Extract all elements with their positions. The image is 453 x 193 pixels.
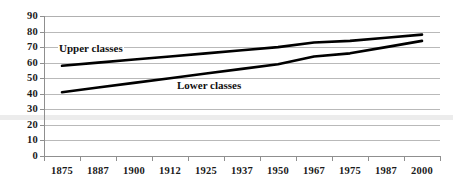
x-tick-mark xyxy=(80,157,81,161)
y-axis: 0102030405060708090 xyxy=(8,0,38,193)
x-tick-mark xyxy=(152,157,153,161)
series-label-lower-classes: Lower classes xyxy=(176,79,242,91)
x-tick-mark xyxy=(404,157,405,161)
y-tick-label: 50 xyxy=(12,73,38,83)
x-tick-mark xyxy=(332,157,333,161)
x-tick-mark xyxy=(260,157,261,161)
line-chart: 0102030405060708090 18751887190019121925… xyxy=(0,0,453,193)
x-tick-label: 1987 xyxy=(375,165,397,176)
x-tick-mark xyxy=(368,157,369,161)
x-tick-mark xyxy=(116,157,117,161)
y-tick-label: 10 xyxy=(12,135,38,145)
y-tick-label: 0 xyxy=(12,151,38,161)
x-tick-label: 1950 xyxy=(267,165,289,176)
x-tick-label: 1937 xyxy=(231,165,253,176)
y-tick-label: 80 xyxy=(12,27,38,37)
x-tick-label: 1887 xyxy=(87,165,109,176)
y-tick-label: 40 xyxy=(12,89,38,99)
y-tick-label: 30 xyxy=(12,104,38,114)
y-tick-label: 90 xyxy=(12,11,38,21)
x-tick-mark xyxy=(188,157,189,161)
x-tick-label: 1967 xyxy=(303,165,325,176)
x-tick-label: 1875 xyxy=(51,165,73,176)
x-tick-label: 1900 xyxy=(123,165,145,176)
x-tick-label: 1975 xyxy=(339,165,361,176)
x-tick-mark xyxy=(44,157,45,161)
series-label-upper-classes: Upper classes xyxy=(58,42,124,54)
x-tick-label: 1925 xyxy=(195,165,217,176)
x-tick-label: 1912 xyxy=(159,165,181,176)
x-tick-mark xyxy=(224,157,225,161)
x-tick-label: 2000 xyxy=(411,165,433,176)
x-tick-mark xyxy=(296,157,297,161)
y-tick-label: 70 xyxy=(12,42,38,52)
x-tick-mark xyxy=(440,157,441,161)
y-tick-label: 20 xyxy=(12,120,38,130)
y-tick-label: 60 xyxy=(12,58,38,68)
